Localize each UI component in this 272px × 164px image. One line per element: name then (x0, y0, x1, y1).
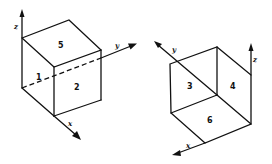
left-y-axis-hidden (22, 58, 101, 88)
left-cube: z y x 5 1 2 (13, 9, 137, 140)
right-face-3-label: 3 (187, 82, 193, 91)
right-x-axis (178, 143, 205, 153)
right-y-label: y (171, 45, 177, 54)
right-face-6-label: 6 (207, 116, 213, 125)
left-z-label: z (13, 22, 19, 31)
right-z-label: z (252, 55, 258, 64)
right-x-arrow-icon (172, 150, 181, 156)
left-x-axis (54, 116, 76, 135)
left-y-label: y (114, 41, 120, 50)
cube-diagram: z y x 5 1 2 y z x (0, 0, 272, 164)
right-z-arrow-icon (249, 43, 254, 51)
left-face-2-label: 2 (74, 83, 80, 92)
right-outline (170, 47, 251, 143)
left-bottom-left-edge (22, 88, 54, 116)
right-x-label: x (185, 141, 191, 150)
right-face-4-label: 4 (230, 82, 236, 91)
left-bottom-right-edge (54, 100, 101, 116)
left-y-arrow-icon (128, 44, 137, 50)
left-face-1-label: 1 (36, 73, 42, 82)
right-inner-left (171, 95, 217, 113)
left-z-arrow-icon (20, 9, 25, 17)
right-inner-right (217, 95, 251, 124)
left-x-label: x (67, 119, 73, 128)
diagram-canvas: z y x 5 1 2 y z x (0, 0, 272, 164)
right-cube: y z x 3 4 6 (154, 41, 258, 156)
left-face-5-label: 5 (58, 41, 64, 50)
